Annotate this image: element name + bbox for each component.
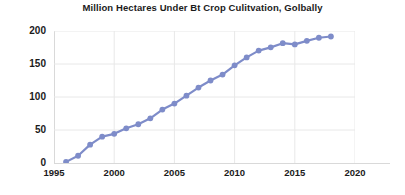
data-point-marker: [268, 44, 274, 50]
y-tick-label: 200: [6, 26, 46, 36]
x-tick-label: 1995: [32, 168, 76, 178]
data-point-marker: [280, 40, 286, 46]
data-point-marker: [135, 121, 141, 127]
data-point-marker: [244, 55, 250, 61]
chart-title: Million Hectares Under Bt Crop Culitvati…: [0, 2, 405, 13]
data-point-marker: [232, 62, 238, 68]
data-point-marker: [316, 35, 322, 41]
data-point-marker: [99, 134, 105, 140]
data-point-marker: [123, 125, 129, 131]
data-point-marker: [256, 48, 262, 54]
data-point-marker: [196, 85, 202, 91]
x-tick-label: 2015: [273, 168, 317, 178]
line-chart-svg: [54, 31, 355, 163]
x-tick-label: 2000: [92, 168, 136, 178]
y-tick-label: 150: [6, 59, 46, 69]
data-point-markers: [63, 34, 334, 163]
x-tick-label: 2010: [213, 168, 257, 178]
x-axis-line: [54, 163, 390, 164]
y-tick-label: 0: [6, 158, 46, 168]
data-point-marker: [87, 142, 93, 148]
data-series-line: [66, 36, 331, 161]
x-tick-label: 2005: [152, 168, 196, 178]
data-point-marker: [208, 78, 214, 84]
data-point-marker: [304, 38, 310, 44]
data-point-marker: [75, 153, 81, 159]
data-point-marker: [184, 93, 190, 99]
y-tick-label: 50: [6, 125, 46, 135]
data-point-marker: [111, 131, 117, 137]
chart-container: Million Hectares Under Bt Crop Culitvati…: [0, 0, 405, 195]
data-point-marker: [292, 42, 298, 48]
x-tick-label: 2020: [333, 168, 377, 178]
data-point-marker: [159, 107, 165, 113]
grid-lines: [54, 31, 355, 163]
data-point-marker: [220, 72, 226, 78]
y-tick-label: 100: [6, 92, 46, 102]
data-point-marker: [328, 34, 334, 40]
data-point-marker: [63, 159, 69, 163]
plot-area: [54, 31, 355, 163]
data-point-marker: [172, 101, 178, 107]
data-point-marker: [147, 115, 153, 121]
